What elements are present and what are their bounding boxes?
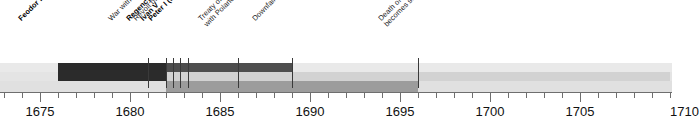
axis-tick-major-1685 xyxy=(220,93,221,102)
axis-tick-minor xyxy=(382,93,383,98)
axis-tick-minor xyxy=(598,93,599,98)
axis-tick-major-1675 xyxy=(40,93,41,102)
axis-tick-minor xyxy=(256,93,257,98)
axis-tick-minor xyxy=(436,93,437,98)
leader-line-ivan-v xyxy=(180,58,181,88)
axis-tick-label-1690: 1690 xyxy=(295,104,324,119)
axis-tick-major-1695 xyxy=(400,93,401,102)
axis-tick-minor xyxy=(616,93,617,98)
event-label-feodor-iii[interactable]: Feodor III xyxy=(17,0,82,58)
axis-tick-minor xyxy=(4,93,5,98)
axis-tick-label-1705: 1705 xyxy=(565,104,594,119)
axis-tick-minor xyxy=(202,93,203,98)
axis-tick-minor xyxy=(184,93,185,98)
axis-tick-minor xyxy=(346,93,347,98)
axis-tick-minor xyxy=(526,93,527,98)
event-label-line1: Feodor III xyxy=(16,0,47,23)
axis-tick-minor xyxy=(328,93,329,98)
axis-tick-minor xyxy=(670,93,671,98)
axis-tick-minor xyxy=(292,93,293,98)
timeline-axis-line xyxy=(0,92,672,93)
axis-tick-label-1675: 1675 xyxy=(25,104,54,119)
axis-tick-minor xyxy=(166,93,167,98)
axis-tick-minor xyxy=(544,93,545,98)
bar-feodor-iii[interactable] xyxy=(58,63,166,81)
axis-tick-minor xyxy=(634,93,635,98)
axis-tick-minor xyxy=(58,93,59,98)
axis-tick-label-1700: 1700 xyxy=(475,104,504,119)
axis-tick-minor xyxy=(274,93,275,98)
leader-line-peter-i-the-great xyxy=(188,58,189,88)
axis-tick-minor xyxy=(454,93,455,98)
axis-tick-major-1700 xyxy=(490,93,491,102)
axis-tick-minor xyxy=(112,93,113,98)
event-label-downfall-of-sophia[interactable]: Downfall of Sophia xyxy=(251,0,337,58)
axis-tick-major-1690 xyxy=(310,93,311,102)
axis-tick-minor xyxy=(652,93,653,98)
axis-tick-minor xyxy=(238,93,239,98)
axis-tick-minor xyxy=(22,93,23,98)
axis-tick-minor xyxy=(562,93,563,98)
axis-tick-label-1680: 1680 xyxy=(115,104,144,119)
axis-tick-major-1705 xyxy=(580,93,581,102)
axis-tick-minor xyxy=(76,93,77,98)
axis-tick-minor xyxy=(508,93,509,98)
timeline-bar-area xyxy=(0,63,672,92)
axis-tick-minor xyxy=(94,93,95,98)
leader-line-death-of-ivan-peter-sole-ruler xyxy=(418,58,419,88)
axis-tick-minor xyxy=(148,93,149,98)
leader-line-regency-of-sophia xyxy=(166,58,167,88)
axis-tick-minor xyxy=(418,93,419,98)
leader-line-revolt-of-the-streltsy xyxy=(173,58,174,88)
event-label-death-of-ivan-peter-sole-ruler[interactable]: Death of Ivan; Peter Ibecomes sole ruler xyxy=(377,0,469,58)
axis-tick-major-1680 xyxy=(130,93,131,102)
leader-line-treaty-of-eternal-peace-with-poland xyxy=(238,58,239,88)
leader-line-downfall-of-sophia xyxy=(292,58,293,88)
axis-tick-label-1685: 1685 xyxy=(205,104,234,119)
leader-line-war-with-turkey-ends xyxy=(148,58,149,88)
axis-tick-minor xyxy=(472,93,473,98)
axis-tick-label-1695: 1695 xyxy=(385,104,414,119)
axis-tick-minor xyxy=(364,93,365,98)
axis-tick-label-1710-clipped: 1710 xyxy=(670,104,699,119)
